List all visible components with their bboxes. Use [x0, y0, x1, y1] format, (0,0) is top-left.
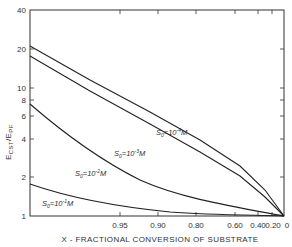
curve-label-s0-1e-3: S0=10-3M	[114, 148, 146, 159]
plot-frame	[30, 10, 284, 216]
y-tick-label: 20	[17, 45, 26, 54]
y-tick-label: 40	[17, 6, 26, 15]
y-tick-label: 2	[22, 173, 27, 182]
y-tick-labels: 40 20 10 8 6 4 2 1	[17, 6, 26, 221]
x-tick-label: 0.90	[150, 221, 166, 230]
y-tick-label: 4	[22, 135, 27, 144]
y-tick-label: 10	[17, 84, 26, 93]
svg-text:ECST/EPF: ECST/EPF	[4, 124, 14, 160]
x-tick-label: 0	[285, 221, 290, 230]
x-tick-label: 0.80	[188, 221, 204, 230]
x-axis-title: X - FRACTIONAL CONVERSION OF SUBSTRATE	[62, 235, 259, 244]
y-tick-label: 8	[22, 96, 27, 105]
y-tick-label: 6	[22, 112, 27, 121]
x-tick-label: 0.60	[227, 221, 243, 230]
x-tick-label: 0.40	[250, 221, 266, 230]
y-axis-ticks	[30, 10, 284, 216]
curve-label-s0-1e-2: S0=10-2M	[75, 168, 107, 179]
curve-label-s0-1e-4: S0=10-4M	[156, 127, 188, 138]
y-axis-title: ECST/EPF	[4, 124, 14, 160]
x-tick-label: 0.20	[265, 221, 281, 230]
x-tick-labels: 0.95 0.90 0.80 0.60 0.40 0.20 0	[112, 221, 290, 230]
y-axis-title-sep: /E	[4, 133, 13, 141]
y-tick-label: 1	[22, 212, 27, 221]
y-axis-title-sub2: PF	[8, 124, 14, 132]
x-tick-label: 0.95	[112, 221, 128, 230]
y-axis-title-sub1: CST	[8, 141, 14, 154]
chart-figure: 40 20 10 8 6 4 2 1 0.95 0.90 0.80 0.60 0…	[0, 0, 292, 247]
curve-label-s0-1e-1: S0=10-1M	[42, 198, 74, 209]
